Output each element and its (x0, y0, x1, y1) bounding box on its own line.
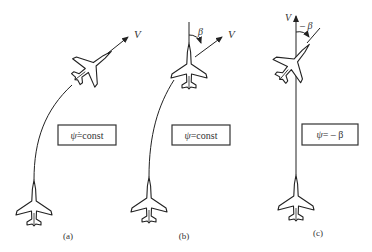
flight-path-diagram: V ψ̇=const (a) β V ψ=const (b) V – β ψ= … (0, 0, 372, 252)
airplane-icon (266, 33, 323, 91)
airplane-icon (64, 37, 122, 94)
panel-b: β V ψ=const (b) (131, 22, 236, 241)
equation-text: ψ=const (185, 130, 218, 141)
caption-c: (c) (313, 228, 323, 238)
airplane-icon (171, 43, 207, 89)
curved-flight-path (149, 80, 174, 177)
beta-label: β (197, 26, 203, 37)
velocity-arrow (108, 37, 128, 53)
airplane-icon (16, 180, 52, 226)
velocity-label: V (134, 28, 142, 40)
airplane-icon (278, 175, 314, 221)
panel-a: V ψ̇=const (a) (16, 28, 142, 241)
panel-c: V – β ψ= – β (c) (266, 12, 358, 238)
airplane-icon (131, 177, 167, 223)
caption-b: (b) (179, 231, 190, 241)
equation-text: ψ̇=const (71, 130, 104, 141)
beta-label: – β (299, 20, 313, 31)
equation-text: ψ= – β (317, 129, 344, 140)
velocity-label: V (228, 28, 236, 40)
beta-angle-arc (296, 32, 309, 37)
caption-a: (a) (63, 231, 73, 241)
velocity-label: V (285, 12, 293, 23)
